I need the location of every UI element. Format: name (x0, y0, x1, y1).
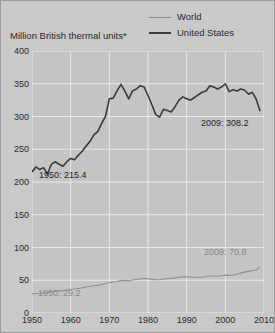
series-line-united-states (32, 84, 260, 174)
y-tick-label: 300 (3, 112, 29, 122)
chart-legend: World United States (149, 9, 269, 41)
world-series-start-value: 1950: 29.2 (38, 288, 81, 298)
x-axis-ticks: 1950196019701980199020002010 (32, 315, 264, 329)
y-tick-label: 250 (3, 144, 29, 154)
us-series-start-value: 1950: 215.4 (39, 170, 87, 180)
legend-item-united-states: United States (149, 25, 269, 41)
line-swatch-united-states-icon (149, 32, 171, 34)
legend-item-world: World (149, 9, 269, 25)
y-tick-label: 150 (3, 210, 29, 220)
x-tick-label: 1960 (61, 315, 81, 325)
x-tick-label: 1950 (22, 315, 42, 325)
y-tick-label: 200 (3, 177, 29, 187)
plot-svg (32, 51, 264, 313)
y-tick-label: 400 (3, 46, 29, 56)
x-tick-label: 1990 (177, 315, 197, 325)
y-tick-label: 100 (3, 243, 29, 253)
x-tick-label: 1970 (99, 315, 119, 325)
line-swatch-world-icon (149, 17, 171, 18)
world-series-end-value: 2009: 70.8 (204, 247, 247, 257)
y-tick-label: 50 (3, 275, 29, 285)
x-tick-label: 2010 (254, 315, 274, 325)
x-tick-label: 1980 (138, 315, 158, 325)
plot-area (32, 51, 264, 313)
x-tick-label: 2000 (215, 315, 235, 325)
legend-label-united-states: United States (177, 28, 234, 38)
energy-consumption-per-capita-chart: World United States Million British ther… (0, 0, 275, 333)
y-tick-label: 350 (3, 79, 29, 89)
y-axis-title: Million British thermal units* (10, 30, 127, 41)
legend-label-world: World (177, 12, 202, 22)
y-axis-ticks: 050100150200250300350400 (1, 51, 29, 313)
us-series-end-value: 2009: 308.2 (201, 118, 249, 128)
